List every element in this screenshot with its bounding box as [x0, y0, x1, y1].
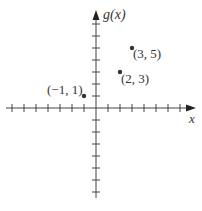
coordinate-plane	[0, 0, 202, 211]
y-axis-label: g(x)	[103, 8, 126, 22]
x-axis-label: x	[189, 112, 195, 125]
point-label-3-5: (3, 5)	[133, 47, 161, 60]
y-axis-arrow-icon	[93, 10, 100, 20]
point-label-neg1-1: (−1, 1)	[47, 83, 83, 96]
y-axis-label-text: g(x)	[103, 7, 126, 22]
point-label-2-3: (2, 3)	[121, 72, 149, 85]
